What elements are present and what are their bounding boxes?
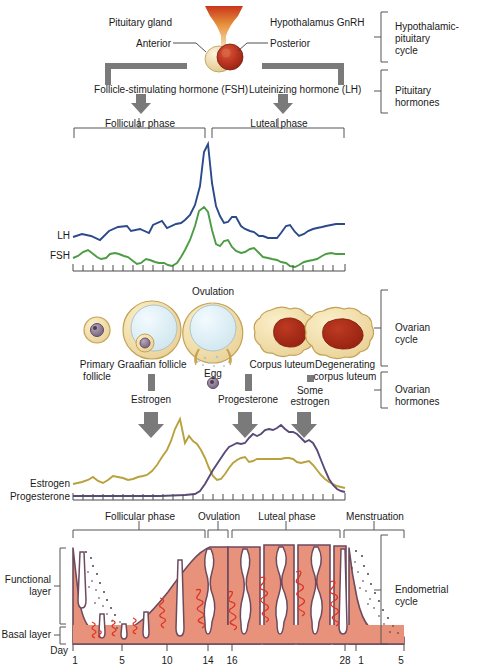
bracket-label-oh-l2: hormones [395,396,439,407]
corpus-luteum-label: Corpus luteum [249,359,314,370]
estrogen-source-label: Estrogen [131,394,171,405]
ovarian-hormone-arrows [138,412,317,438]
pituitary-illustration [205,6,243,72]
day-tick-1a: 1 [72,655,78,666]
bracket-label-ec-l1: Endometrial [395,584,448,595]
ovarian-hormone-bars [148,374,314,391]
ovulation-label: Ovulation [192,286,234,297]
progesterone-source-label: Progesterone [218,394,278,405]
primary-follicle-label-l2: follicle [83,371,111,382]
endo-phase-follicular: Follicular phase [105,511,175,522]
estrogen-curve-label: Estrogen [30,478,70,489]
day-tick-5b: 5 [398,655,404,666]
some-estrogen-label-l1: Some [297,385,323,396]
bracket-label-oc-l2: cycle [395,334,418,345]
day-tick-5a: 5 [119,655,125,666]
functional-layer-label-l1: Functional [5,574,51,585]
fsh-curve-label: FSH [50,250,70,261]
posterior-label: Posterior [270,38,310,49]
endo-phase-menstruation: Menstruation [346,511,404,522]
day-tick-16: 16 [226,655,237,666]
fsh-curve [73,207,345,267]
estrogen-bar [148,374,155,391]
bracket-label-ec-l2: cycle [395,596,418,607]
primary-follicle-icon [84,317,110,343]
some-estrogen-label-l2: estrogen [291,396,330,407]
pituitary-chart-axis [73,264,345,271]
day-tick-14: 14 [202,655,213,666]
pituitary-gland-label: Pituitary gland [109,17,172,28]
lh-label: Luteinizing hormone (LH) [249,84,361,95]
anterior-leader [173,43,206,52]
posterior-leader [238,43,268,51]
endo-phase-ovulation: Ovulation [198,511,240,522]
egg-icon [208,378,219,389]
day-tick-28: 28 [339,655,350,666]
basal-layer-label: Basal layer [2,629,51,640]
day-tick-1b: 1 [358,655,364,666]
day-tick-10: 10 [161,655,172,666]
anterior-label: Anterior [136,38,171,49]
figure-root: Pituitary gland Hypothalamus GnRH Anteri… [0,0,482,672]
endometrial-phase-brackets [73,521,404,538]
bracket-label-hp-l3: cycle [395,45,418,56]
progesterone-bar [245,374,252,391]
degenerating-corpus-luteum-label-l2: corpus luteum [314,371,377,382]
egg-label: Egg [204,368,222,379]
progesterone-curve-label: Progesterone [10,491,70,502]
luteal-phase-label-top: Luteal phase [250,118,307,129]
endo-phase-luteal: Luteal phase [258,511,315,522]
lh-curve-label: LH [57,230,70,241]
day-axis-label: Day [50,645,68,656]
bracket-label-hp-l2: pituitary [395,33,430,44]
hypothalamus-label: Hypothalamus GnRH [270,17,364,28]
functional-layer-label-l2: layer [29,586,51,597]
bracket-label-oh-l1: Ovarian [395,384,430,395]
fsh-label: Follicle-stimulating hormone (FSH) [94,84,248,95]
day-axis [73,644,404,651]
primary-follicle-label-l1: Primary [80,359,114,370]
right-brackets [374,12,388,644]
layer-brackets [54,548,66,644]
bracket-label-hp-l1: Hypothalamic- [395,21,459,32]
lh-curve [73,144,345,240]
bracket-label-oc-l1: Ovarian [395,322,430,333]
phase-arrows [131,94,293,114]
ovulating-follicle-icon [183,303,243,367]
graafian-follicle-icon [123,301,181,359]
follicular-phase-label-top: Follicular phase [105,118,175,129]
degenerating-corpus-luteum-icon [305,307,373,358]
pituitary-hormone-chart [73,144,345,271]
bracket-label-ph-l1: Pituitary [395,85,431,96]
degenerating-corpus-luteum-label-l1: Degenerating [315,359,375,370]
bracket-label-ph-l2: hormones [395,97,439,108]
graafian-follicle-label: Graafian follicle [118,359,187,370]
endometrium-illustration [54,545,404,651]
